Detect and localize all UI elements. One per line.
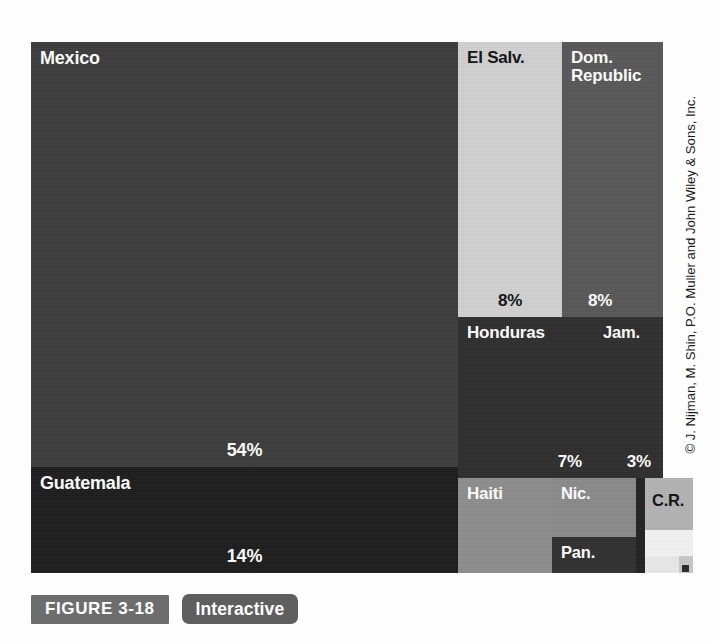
- treemap-cell-dom-republic[interactable]: Dom. Republic8%: [562, 42, 663, 317]
- treemap-cell-label: El Salv.: [467, 49, 525, 67]
- treemap-cell-label: Haiti: [467, 485, 503, 503]
- treemap-cell-label: Honduras: [467, 324, 545, 342]
- figure-footer: FIGURE 3-18 Interactive: [31, 592, 298, 626]
- treemap-cell-c-r[interactable]: C.R.: [645, 478, 693, 530]
- treemap-cell-value: 3%: [627, 452, 651, 472]
- treemap-cell-label: Nic.: [561, 485, 590, 502]
- treemap-chart: Mexico54%Guatemala14%El Salv.8%Dom. Repu…: [31, 42, 663, 573]
- figure-page: Mexico54%Guatemala14%El Salv.8%Dom. Repu…: [0, 0, 718, 643]
- treemap-cell-label: Jam.: [603, 324, 640, 341]
- figure-number-badge: FIGURE 3-18: [31, 595, 169, 624]
- treemap-cell-unlabeled-white-a: [645, 530, 693, 556]
- treemap-cell-guatemala[interactable]: Guatemala14%: [31, 467, 458, 573]
- treemap-cell-unlabeled-dot: [682, 565, 689, 572]
- treemap-cell-value: 8%: [498, 291, 522, 311]
- copyright-credit: © J. Nijman, M. Shin, P.O. Muller and Jo…: [683, 96, 698, 454]
- treemap-cell-el-salv[interactable]: El Salv.8%: [458, 42, 562, 317]
- treemap-cell-label: Dom. Republic: [571, 49, 641, 85]
- treemap-cell-jam[interactable]: Jam.3%: [594, 317, 663, 478]
- treemap-cell-pan[interactable]: Pan.: [552, 537, 636, 573]
- treemap-cell-label: C.R.: [652, 492, 684, 509]
- treemap-cell-honduras[interactable]: Honduras7%: [458, 317, 594, 478]
- treemap-cell-nic[interactable]: Nic.: [552, 478, 636, 537]
- treemap-cell-value: 8%: [588, 291, 612, 311]
- treemap-cell-label: Mexico: [40, 49, 100, 68]
- treemap-cell-haiti[interactable]: Haiti: [458, 478, 552, 573]
- treemap-cell-mexico[interactable]: Mexico54%: [31, 42, 458, 467]
- treemap-cell-unlabeled-dark-strip: [636, 478, 645, 573]
- treemap-cell-value: 7%: [558, 452, 582, 472]
- treemap-cell-unlabeled-white-b: [645, 556, 679, 573]
- interactive-button[interactable]: Interactive: [182, 594, 299, 624]
- treemap-cell-value: 54%: [227, 440, 262, 461]
- treemap-cell-label: Guatemala: [40, 474, 130, 493]
- treemap-cell-label: Pan.: [561, 544, 595, 561]
- treemap-cell-value: 14%: [227, 546, 262, 567]
